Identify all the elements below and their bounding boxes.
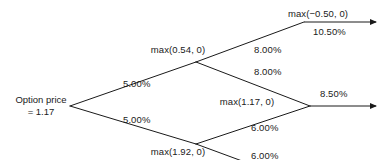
node-label-up: max(0.54, 0) <box>151 44 206 55</box>
branch-up-up <box>196 22 304 62</box>
rate-label-up-up: 8.00% <box>254 44 281 55</box>
rate-label-root-up: 5.00% <box>123 78 150 89</box>
root-node-label: Option price = 1.17 <box>15 94 66 118</box>
rate-label-terminal-lower: 8.50% <box>320 88 347 99</box>
rate-label-down-up: 6.00% <box>251 122 278 133</box>
branch-root-down <box>70 106 196 144</box>
rate-label-down-down: 6.00% <box>251 150 278 160</box>
rate-label-terminal-upper: 10.50% <box>313 26 346 37</box>
node-label-up-up: max(−0.50, 0) <box>288 8 348 19</box>
node-label-down: max(1.92, 0) <box>151 146 206 157</box>
option-tree-diagram: Option price = 1.17 max(0.54, 0) max(1.9… <box>0 0 384 160</box>
rate-label-root-down: 5.00% <box>123 114 150 125</box>
node-label-mid: max(1.17, 0) <box>220 96 275 107</box>
root-label-line1: Option price <box>15 94 66 106</box>
root-label-line2: = 1.17 <box>15 106 66 118</box>
rate-label-up-down: 8.00% <box>254 66 281 77</box>
tree-branches <box>0 0 384 160</box>
